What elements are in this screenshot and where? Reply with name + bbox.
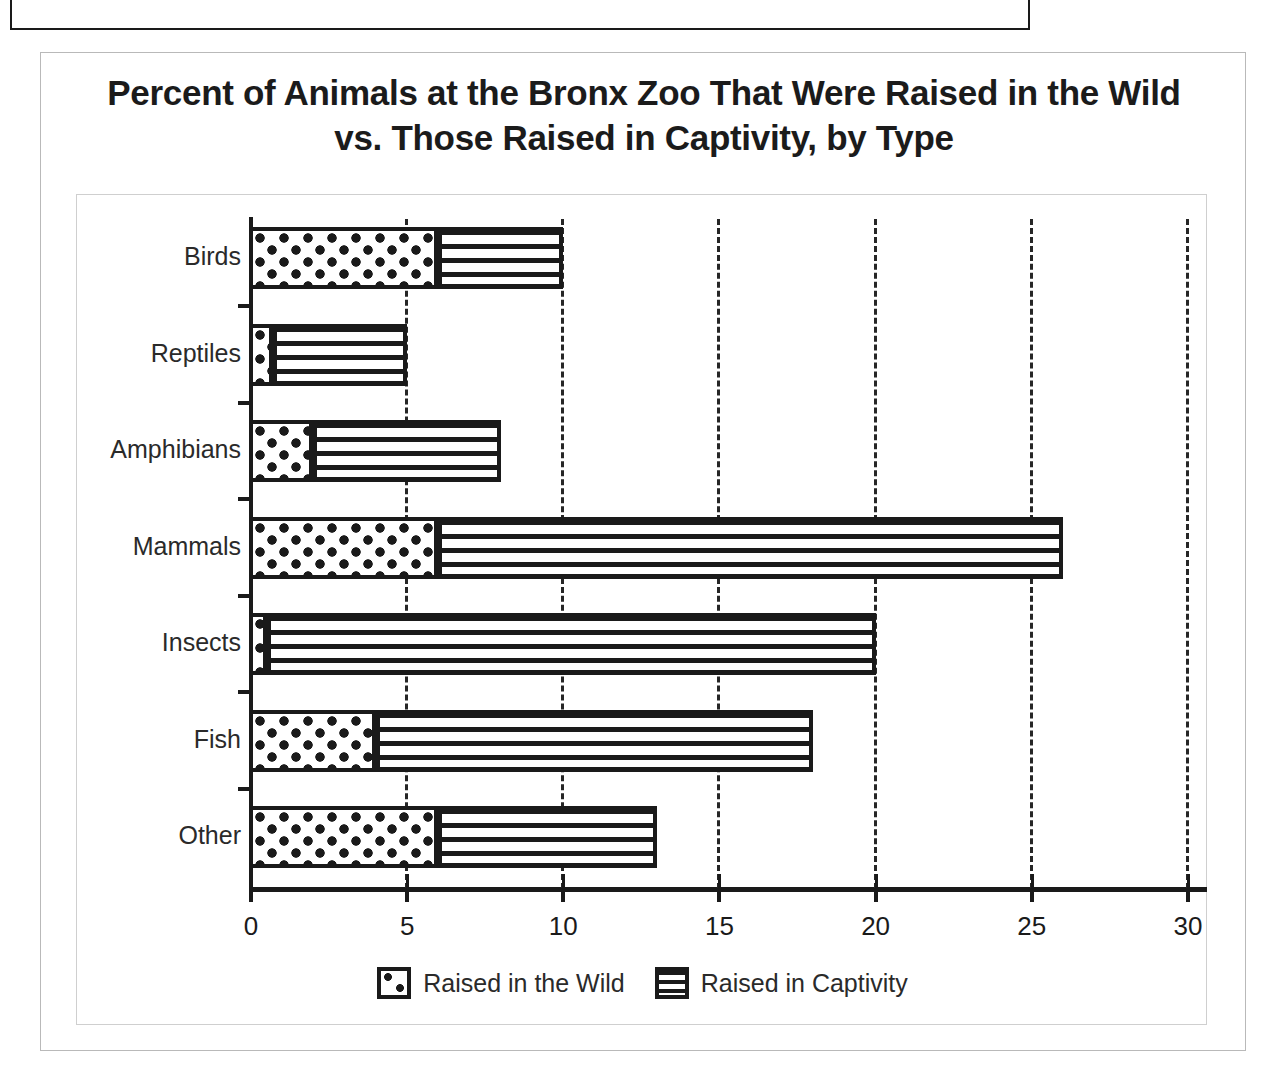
chart-title: Percent of Animals at the Bronx Zoo That…	[101, 71, 1187, 161]
category-label-mammals: Mammals	[73, 532, 241, 561]
y-tick-5	[238, 690, 251, 694]
y-tick-3	[238, 497, 251, 501]
x-tick-label-25: 25	[997, 911, 1067, 942]
category-label-amphibians: Amphibians	[73, 435, 241, 464]
x-tick-inner-0	[250, 874, 253, 888]
x-tick-inner-15	[718, 874, 721, 888]
bar-segment-birds-captivity	[438, 227, 563, 289]
bar-segment-fish-captivity	[376, 710, 813, 772]
y-tick-1	[238, 304, 251, 308]
x-tick-label-0: 0	[216, 911, 286, 942]
x-tick-inner-20	[875, 874, 878, 888]
category-label-insects: Insects	[73, 628, 241, 657]
bar-segment-mammals-captivity	[438, 517, 1063, 579]
x-tick-inner-10	[562, 874, 565, 888]
x-tick-10	[561, 888, 565, 902]
category-label-birds: Birds	[73, 242, 241, 271]
bar-segment-other-wild	[249, 806, 438, 868]
chart-legend: Raised in the Wild Raised in Captivity	[77, 967, 1208, 999]
x-tick-30	[1186, 888, 1190, 902]
legend-item-raised-in-captivity: Raised in Captivity	[655, 967, 908, 999]
bar-segment-amphibians-wild	[249, 420, 313, 482]
bar-segment-mammals-wild	[249, 517, 438, 579]
y-tick-4	[238, 594, 251, 598]
x-tick-inner-5	[406, 874, 409, 888]
bar-segment-amphibians-captivity	[313, 420, 500, 482]
bar-segment-birds-wild	[249, 227, 438, 289]
category-label-reptiles: Reptiles	[73, 339, 241, 368]
x-tick-25	[1030, 888, 1034, 902]
y-tick-6	[238, 787, 251, 791]
x-tick-0	[249, 888, 253, 902]
legend-label-wild: Raised in the Wild	[423, 969, 624, 998]
x-tick-5	[405, 888, 409, 902]
legend-item-raised-in-the-wild: Raised in the Wild	[377, 967, 624, 999]
category-label-other: Other	[73, 821, 241, 850]
x-tick-15	[717, 888, 721, 902]
x-tick-label-30: 30	[1153, 911, 1223, 942]
x-tick-inner-30	[1187, 874, 1190, 888]
bar-segment-fish-wild	[249, 710, 376, 772]
figure-frame: Percent of Animals at the Bronx Zoo That…	[40, 52, 1246, 1051]
bar-segment-other-captivity	[438, 806, 657, 868]
category-label-fish: Fish	[73, 725, 241, 754]
x-tick-inner-25	[1031, 874, 1034, 888]
plot-area: 051015202530 BirdsReptilesAmphibiansMamm…	[77, 195, 1206, 1024]
top-cutoff-box: Question 14 of 20 — refer to the graph b…	[10, 0, 1030, 30]
dotted-pattern-swatch-icon	[377, 967, 411, 999]
legend-label-captivity: Raised in Captivity	[701, 969, 908, 998]
plot-frame: 051015202530 BirdsReptilesAmphibiansMamm…	[76, 194, 1207, 1025]
y-tick-2	[238, 401, 251, 405]
x-tick-label-5: 5	[372, 911, 442, 942]
x-axis-line	[249, 887, 1207, 892]
x-tick-label-15: 15	[684, 911, 754, 942]
x-tick-label-20: 20	[841, 911, 911, 942]
bar-segment-reptiles-captivity	[273, 324, 407, 386]
bar-segment-insects-wild	[249, 613, 267, 675]
gridline-30	[1186, 219, 1189, 889]
horizontal-lines-pattern-swatch-icon	[655, 967, 689, 999]
bar-segment-reptiles-wild	[249, 324, 273, 386]
x-tick-20	[874, 888, 878, 902]
x-tick-label-10: 10	[528, 911, 598, 942]
bar-segment-insects-captivity	[267, 613, 876, 675]
